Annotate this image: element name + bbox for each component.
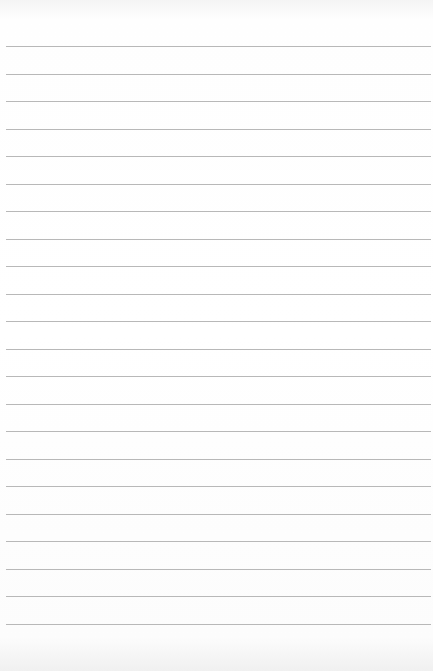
ruled-line	[6, 431, 431, 432]
ruled-line	[6, 376, 431, 377]
ruled-line	[6, 459, 431, 460]
ruled-line	[6, 404, 431, 405]
ruled-line	[6, 46, 431, 47]
ruled-line	[6, 129, 431, 130]
ruled-line	[6, 624, 431, 625]
ruled-line	[6, 596, 431, 597]
ruled-line	[6, 156, 431, 157]
ruled-line	[6, 349, 431, 350]
ruled-line	[6, 211, 431, 212]
ruled-line	[6, 569, 431, 570]
ruled-line	[6, 74, 431, 75]
ruled-line	[6, 266, 431, 267]
ruled-line	[6, 541, 431, 542]
lined-paper	[0, 0, 433, 671]
ruled-line	[6, 514, 431, 515]
ruled-line	[6, 101, 431, 102]
ruled-line	[6, 239, 431, 240]
ruled-line	[6, 184, 431, 185]
ruled-line	[6, 294, 431, 295]
ruled-line	[6, 486, 431, 487]
ruled-line	[6, 321, 431, 322]
